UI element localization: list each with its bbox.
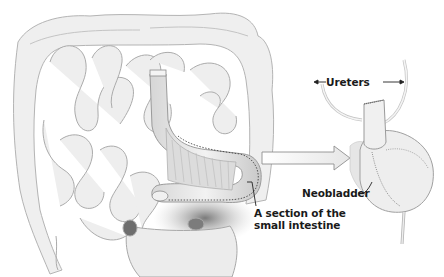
- label-ureters: Ureters: [326, 76, 370, 88]
- illustration-canvas: Ureters Neobladder A section of the smal…: [0, 0, 444, 277]
- transform-arrow-icon: [262, 146, 350, 170]
- intestine-section: [150, 70, 261, 202]
- anatomy-drawing: [0, 0, 444, 277]
- label-section-line2: small intestine: [254, 219, 346, 231]
- label-intestine-section: A section of the small intestine: [254, 207, 346, 231]
- label-section-line1: A section of the: [254, 207, 346, 219]
- label-neobladder: Neobladder: [302, 187, 370, 199]
